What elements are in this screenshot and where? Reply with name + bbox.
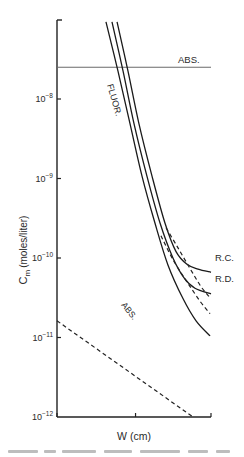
- label-rc: R.C.: [215, 252, 234, 263]
- y-tick-label: 10−11: [32, 331, 53, 343]
- y-axis-title: Cm(moles/liter): [17, 216, 32, 285]
- label-fluor: FLUOR.: [105, 83, 124, 117]
- series-line-r-c-dashed-extension: [166, 228, 210, 298]
- y-tick-label: 10−12: [32, 410, 53, 422]
- y-tick-label: 10−10: [32, 251, 53, 263]
- series-line-fluor: [106, 22, 210, 336]
- svg-text:Cm(moles/liter): Cm(moles/liter): [17, 216, 32, 285]
- label-rd: R.D.: [215, 273, 234, 284]
- axes: [57, 20, 211, 417]
- chart: 10−810−910−1010−1110−12 ABS. FLUOR. R.C.…: [0, 0, 244, 457]
- y-axis-title-sub: m: [23, 269, 32, 276]
- series-line-abs-dashed-diagonal: [57, 321, 193, 417]
- y-axis-title-main: C: [17, 276, 29, 284]
- label-abs-horizontal: ABS.: [178, 54, 200, 65]
- y-tick-label: 10−9: [36, 172, 54, 184]
- plot-area: 10−810−910−1010−1110−12 ABS. FLUOR. R.C.…: [0, 0, 244, 457]
- series-group: [57, 22, 211, 417]
- y-tick-label: 10−8: [36, 92, 54, 104]
- y-axis-title-rest: (moles/liter): [18, 216, 29, 268]
- cropped-caption: [0, 446, 244, 457]
- x-axis-title: W (cm): [117, 430, 151, 442]
- label-abs-dashed: ABS.: [119, 300, 139, 321]
